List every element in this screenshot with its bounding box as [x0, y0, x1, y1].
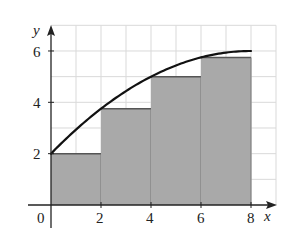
riemann-sum-chart: y x 0 2 4 6 8 2 4 6 [0, 0, 294, 247]
x-tick-label-8: 8 [247, 210, 255, 226]
origin-label: 0 [37, 210, 45, 226]
x-tick-label-6: 6 [197, 210, 205, 226]
x-tick-label-2: 2 [96, 210, 104, 226]
x-axis-label: x [263, 208, 271, 224]
bars [51, 57, 251, 205]
bar [51, 154, 101, 205]
y-tick-label-6: 6 [33, 44, 41, 60]
x-tick-label-4: 4 [146, 210, 154, 226]
y-tick-label-4: 4 [33, 95, 41, 111]
bar [151, 77, 201, 205]
y-axis-label: y [31, 22, 40, 38]
bar [101, 109, 151, 205]
y-tick-label-2: 2 [33, 146, 41, 162]
bar [201, 57, 251, 205]
